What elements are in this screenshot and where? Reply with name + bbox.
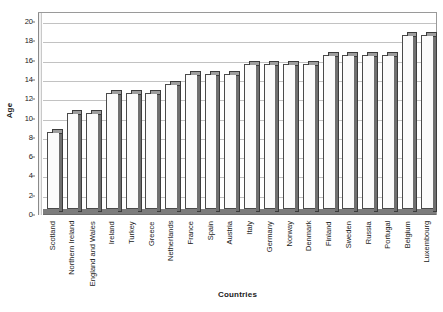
bar-column[interactable] [382,13,394,215]
bar-side-face [315,65,319,212]
x-category-label: Greece [142,217,162,285]
bar[interactable] [106,93,118,209]
bar-side-face [275,65,279,212]
bar-top-face [367,52,378,56]
x-category-label-text: France [187,221,195,244]
bar-column[interactable] [47,13,59,215]
bar-top-face [347,52,358,56]
bar-top-face [426,32,437,36]
bar[interactable] [382,55,394,209]
bar[interactable] [224,74,236,209]
bar-side-face [295,65,299,212]
bar-side-face [98,114,102,213]
bar-side-face [138,94,142,212]
bar-column[interactable] [126,13,138,215]
x-category-label: Denmark [299,217,319,285]
bar[interactable] [362,55,374,209]
bar[interactable] [342,55,354,209]
bar-column[interactable] [86,13,98,215]
x-category-label: Italy [240,217,260,285]
bar-side-face [197,75,201,212]
bar[interactable] [126,93,138,209]
bar-top-face [328,52,339,56]
bar-column[interactable] [67,13,79,215]
bar[interactable] [185,74,197,209]
bar-column[interactable] [402,13,414,215]
bar-top-face [288,61,299,65]
x-category-label: Spain [201,217,221,285]
x-category-label: Finland [319,217,339,285]
bar-column[interactable] [106,13,118,215]
bar[interactable] [303,64,315,209]
bar-top-face [72,110,83,114]
bar-top-face [91,110,102,114]
bar[interactable] [244,64,256,209]
bar-column[interactable] [283,13,295,215]
y-tick-mark [32,195,35,196]
bar-column[interactable] [342,13,354,215]
x-category-label: Germany [260,217,280,285]
bar-column[interactable] [244,13,256,215]
bar[interactable] [86,113,98,210]
bar[interactable] [264,64,276,209]
bar-column[interactable] [323,13,335,215]
x-category-label: France [181,217,201,285]
bar-column[interactable] [165,13,177,215]
bar-side-face [157,94,161,212]
bar-top-face [190,71,201,75]
bar[interactable] [47,132,59,209]
bar-side-face [59,133,63,212]
bar-column[interactable] [421,13,433,215]
y-tick-mark [32,60,35,61]
x-category-label-text: Austria [226,221,234,244]
bar-column[interactable] [264,13,276,215]
x-category-label-text: Luxembourg [423,221,431,263]
y-axis-title: Age [2,0,18,220]
plot-area [38,12,437,215]
x-axis-title: Countries [38,290,437,299]
bar-side-face [256,65,260,212]
x-category-label-text: Greece [148,221,156,246]
bar[interactable] [205,74,217,209]
bar-side-face [78,114,82,213]
bar[interactable] [67,113,79,210]
bar-top-face [111,90,122,94]
y-tick-mark [32,176,35,177]
x-category-label: Ireland [102,217,122,285]
x-category-label-text: Finland [325,221,333,246]
bar-top-face [229,71,240,75]
x-category-label: Belgium [398,217,418,285]
x-axis-title-text: Countries [218,290,257,299]
bar[interactable] [421,35,433,209]
x-category-label: England and Wales [82,217,102,285]
bar[interactable] [165,84,177,209]
bar-column[interactable] [205,13,217,215]
bar-side-face [433,36,437,212]
y-tick-mark [32,22,35,23]
bar-column[interactable] [303,13,315,215]
bar-side-face [335,56,339,212]
bar[interactable] [283,64,295,209]
bar-column[interactable] [362,13,374,215]
bar[interactable] [145,93,157,209]
x-category-label: Russia [358,217,378,285]
bar-column[interactable] [224,13,236,215]
bar-side-face [374,56,378,212]
x-category-label: Luxembourg [417,217,437,285]
bar[interactable] [402,35,414,209]
bar-column[interactable] [185,13,197,215]
y-tick-mark [32,137,35,138]
y-tick-mark [32,41,35,42]
x-category-label: Turkey [122,217,142,285]
x-category-label: Scotland [43,217,63,285]
x-category-label-text: England and Wales [88,221,96,286]
x-category-label-text: Ireland [108,221,116,244]
bar-side-face [413,36,417,212]
y-tick-mark [32,99,35,100]
bar-side-face [177,85,181,212]
bar-column[interactable] [145,13,157,215]
plot-left-wall [38,13,42,215]
x-category-label: Portugal [378,217,398,285]
bar[interactable] [323,55,335,209]
bar-top-face [269,61,280,65]
